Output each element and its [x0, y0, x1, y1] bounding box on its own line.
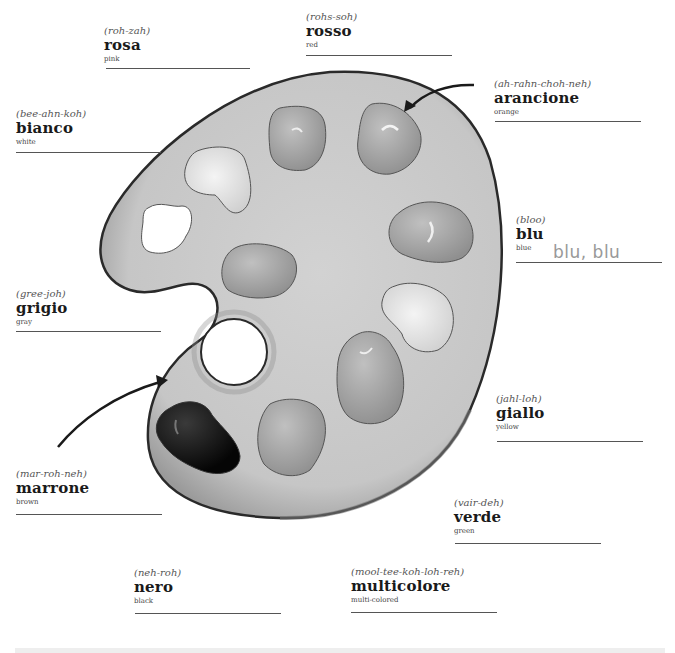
answer-line-rosso[interactable]: [306, 55, 452, 56]
label-blu: (bloo) blu blue: [516, 214, 545, 253]
label-bianco: (bee-ahn-koh) bianco white: [16, 108, 86, 147]
english-gloss: green: [454, 526, 504, 536]
english-gloss: gray: [16, 317, 67, 327]
answer-line-multicolore[interactable]: [351, 612, 497, 613]
arrow-marrone: [58, 382, 160, 447]
italian-word: arancione: [494, 90, 591, 107]
english-gloss: pink: [104, 54, 150, 64]
label-arancione: (ah-rahn-choh-neh) arancione orange: [494, 78, 591, 117]
english-gloss: orange: [494, 107, 591, 117]
paint-blob-blu: [389, 202, 473, 262]
answer-line-giallo[interactable]: [497, 441, 643, 442]
italian-word: multicolore: [351, 578, 464, 595]
english-gloss: white: [16, 137, 86, 147]
italian-word: nero: [134, 579, 181, 596]
paint-blob-rosso: [269, 106, 326, 170]
english-gloss: brown: [16, 497, 89, 507]
label-multicolore: (mool-tee-koh-loh-reh) multicolore multi…: [351, 566, 464, 605]
english-gloss: red: [306, 40, 357, 50]
answer-line-marrone[interactable]: [16, 514, 162, 515]
italian-word: rosso: [306, 23, 357, 40]
italian-word: grigio: [16, 300, 67, 317]
english-gloss: blue: [516, 243, 545, 253]
label-grigio: (gree-joh) grigio gray: [16, 288, 67, 327]
thumb-hole: [201, 319, 267, 385]
label-marrone: (mar-roh-neh) marrone brown: [16, 468, 89, 507]
italian-word: marrone: [16, 480, 89, 497]
answer-line-bianco[interactable]: [16, 152, 161, 153]
paint-blob-grigio: [222, 244, 297, 298]
label-rosso: (rohs-soh) rosso red: [306, 11, 357, 50]
italian-word: bianco: [16, 120, 86, 137]
label-verde: (vair-deh) verde green: [454, 497, 504, 536]
answer-line-rosa[interactable]: [106, 68, 250, 69]
label-rosa: (roh-zah) rosa pink: [104, 25, 150, 64]
answer-line-verde[interactable]: [455, 543, 601, 544]
answer-line-blu[interactable]: [516, 262, 662, 263]
italian-word: verde: [454, 509, 504, 526]
english-gloss: yellow: [496, 422, 545, 432]
italian-word: blu: [516, 226, 545, 243]
english-gloss: black: [134, 596, 181, 606]
label-giallo: (jahl-loh) giallo yellow: [496, 393, 545, 432]
answer-line-arancione[interactable]: [495, 121, 641, 122]
answer-line-grigio[interactable]: [16, 331, 161, 332]
answer-line-nero[interactable]: [135, 613, 281, 614]
label-nero: (neh-roh) nero black: [134, 567, 181, 606]
italian-word: rosa: [104, 37, 150, 54]
english-gloss: multi-colored: [351, 595, 464, 605]
italian-word: giallo: [496, 405, 545, 422]
page-bottom-edge: [15, 648, 665, 653]
handwritten-answer-blu[interactable]: blu, blu: [553, 242, 620, 262]
